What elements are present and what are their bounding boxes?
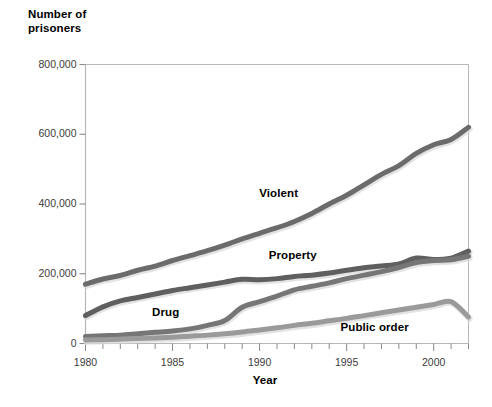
x-tick-label-2: 1990 [230, 356, 290, 368]
series-label-violent: Violent [259, 187, 298, 199]
y-tick-label-3: 600,000 [15, 127, 77, 139]
series-label-drug: Drug [152, 306, 179, 318]
series-label-property: Property [269, 249, 317, 261]
x-axis-title: Year [215, 374, 315, 388]
x-tick-label-1: 1985 [143, 356, 203, 368]
y-tick-label-2: 400,000 [15, 197, 77, 209]
plot-frame-top-right [86, 65, 469, 344]
x-tick-label-0: 1980 [56, 356, 116, 368]
y-tick-label-4: 800,000 [15, 58, 77, 70]
x-tick-label-4: 2000 [404, 356, 464, 368]
chart-figure: Number of prisoners 0200,000400,000600,0… [0, 0, 492, 407]
y-tick-label-1: 200,000 [15, 267, 77, 279]
y-tick-label-0: 0 [15, 337, 77, 349]
series-label-public-order: Public order [340, 321, 408, 333]
x-tick-label-3: 1995 [317, 356, 377, 368]
